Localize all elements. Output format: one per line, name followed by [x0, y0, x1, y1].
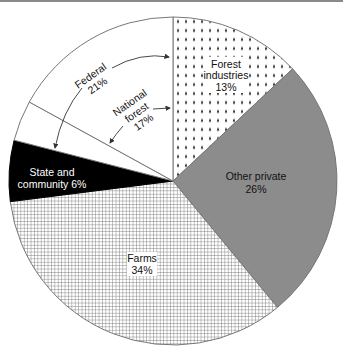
label-farms: Farms 34% — [127, 252, 157, 276]
svg-text:Other private: Other private — [226, 170, 287, 182]
svg-text:26%: 26% — [245, 183, 266, 195]
svg-text:community 6%: community 6% — [18, 178, 87, 190]
label-forest-industries: Forest industries 13% — [204, 57, 249, 93]
svg-text:13%: 13% — [215, 81, 236, 93]
svg-text:34%: 34% — [131, 264, 152, 276]
svg-text:industries: industries — [204, 69, 249, 81]
svg-text:Farms: Farms — [127, 252, 157, 264]
pie-chart: Forest industries 13% Other private 26% … — [0, 0, 343, 354]
svg-text:State and: State and — [30, 166, 75, 178]
